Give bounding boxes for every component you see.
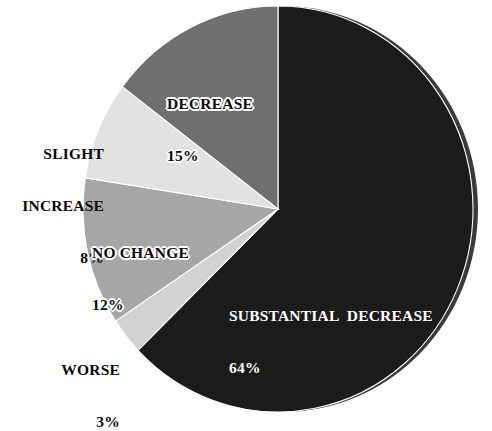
slice-label-slight-increase-percent: 8% — [0, 249, 104, 266]
slice-label-slight-increase: SLIGHT INCREASE 8% — [0, 110, 104, 301]
slice-label-no-change-name: NO CHANGE — [92, 244, 189, 261]
slice-label-worse-name: WORSE — [0, 361, 120, 378]
slice-label-worse: WORSE 3% — [0, 326, 120, 431]
slice-label-decrease-name: DECREASE — [167, 95, 253, 112]
slice-label-substantial-decrease: SUBSTANTIAL DECREASE 64% — [229, 272, 433, 411]
slice-label-decrease-percent: 15% — [167, 147, 253, 164]
slice-label-slight-increase-line1: SLIGHT — [0, 145, 104, 162]
slice-label-decrease: DECREASE 15% — [167, 60, 253, 199]
slice-label-substantial-decrease-percent: 64% — [229, 359, 433, 376]
slice-label-worse-percent: 3% — [0, 413, 120, 430]
slice-label-no-change-percent: 12% — [92, 296, 189, 313]
slice-label-slight-increase-line2: INCREASE — [0, 197, 104, 214]
slice-label-substantial-decrease-name: SUBSTANTIAL DECREASE — [229, 307, 433, 324]
